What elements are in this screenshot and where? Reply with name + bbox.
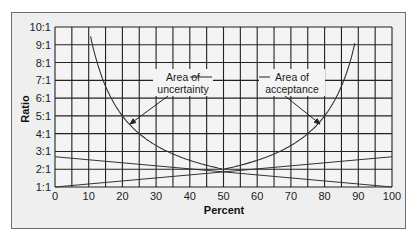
annotation-right-line1: Area of (275, 71, 309, 83)
x-tick-label: 90 (352, 190, 364, 202)
y-tick-label: 9:1 (36, 39, 51, 51)
x-tick-label: 80 (318, 190, 330, 202)
y-tick-label: 8:1 (36, 57, 51, 69)
annotation-right-line2: acceptance (265, 83, 319, 95)
x-tick-labels: 0102030405060708090100 (52, 190, 401, 202)
y-tick-label: 2:1 (36, 163, 51, 175)
x-tick-label: 100 (383, 190, 401, 202)
x-tick-label: 30 (150, 190, 162, 202)
x-tick-label: 60 (251, 190, 263, 202)
y-tick-label: 7:1 (36, 74, 51, 86)
y-tick-label: 3:1 (36, 145, 51, 157)
x-tick-label: 0 (52, 190, 58, 202)
x-tick-label: 70 (285, 190, 297, 202)
ratio-percent-chart: 1:12:13:14:15:16:17:18:19:110:1 01020304… (0, 0, 417, 243)
y-axis-title: Ratio (19, 95, 31, 123)
y-tick-label: 4:1 (36, 128, 51, 140)
y-tick-label: 5:1 (36, 110, 51, 122)
x-tick-label: 40 (184, 190, 196, 202)
x-tick-label: 50 (217, 190, 229, 202)
annotation-left-line2: uncertainty (157, 83, 209, 95)
grid-lines (55, 27, 392, 187)
y-tick-label: 6:1 (36, 92, 51, 104)
x-tick-label: 20 (116, 190, 128, 202)
y-tick-label: 10:1 (30, 21, 51, 33)
y-tick-labels: 1:12:13:14:15:16:17:18:19:110:1 (30, 21, 51, 193)
y-tick-label: 1:1 (36, 181, 51, 193)
x-axis-title: Percent (204, 204, 245, 216)
x-tick-label: 10 (83, 190, 95, 202)
